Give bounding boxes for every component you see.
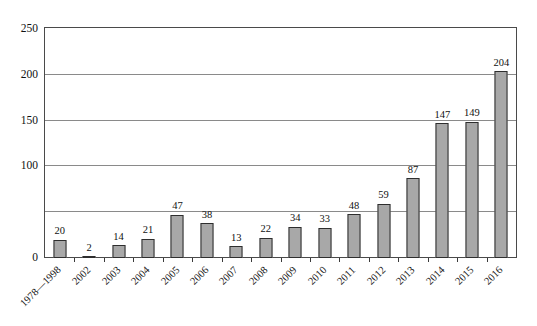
bar[interactable]	[465, 122, 478, 258]
bar-value-label: 48	[349, 201, 360, 212]
y-axis-tick-label: 250	[0, 22, 38, 34]
bar[interactable]	[142, 239, 155, 258]
bar[interactable]	[112, 245, 125, 258]
x-axis-category-label: 2014	[424, 264, 447, 287]
bar-slot: 147	[428, 28, 457, 258]
bar[interactable]	[377, 204, 390, 258]
x-axis-category-label: 2012	[365, 264, 388, 287]
x-axis-category-label: 2003	[100, 264, 123, 287]
x-axis-category-label: 2004	[129, 264, 152, 287]
bar-chart: 0100150200250 20214214738132234334859871…	[0, 0, 537, 326]
bar-value-label: 14	[113, 232, 124, 243]
bar-value-label: 47	[172, 201, 183, 212]
bar-value-label: 22	[261, 224, 272, 235]
bar-value-label: 21	[143, 225, 154, 236]
bar-value-label: 87	[408, 165, 419, 176]
x-axis-category-label: 2002	[70, 264, 93, 287]
bar-value-label: 204	[493, 58, 509, 69]
bar[interactable]	[259, 238, 272, 258]
bar[interactable]	[171, 215, 184, 258]
bar[interactable]	[495, 71, 508, 258]
bars-layer: 2021421473813223433485987147149204	[45, 28, 516, 258]
bar-value-label: 149	[464, 108, 480, 119]
bar-slot: 47	[163, 28, 192, 258]
bar-slot: 48	[339, 28, 368, 258]
x-axis-category-label: 2008	[247, 264, 270, 287]
x-axis-category-label: 2010	[306, 264, 329, 287]
bar[interactable]	[200, 223, 213, 258]
bar-slot: 21	[133, 28, 162, 258]
bar[interactable]	[348, 214, 361, 258]
y-axis-tick-label: 200	[0, 68, 38, 80]
x-axis-category-label: 2013	[394, 264, 417, 287]
bar-slot: 204	[487, 28, 516, 258]
bar-value-label: 2	[87, 243, 92, 254]
bar-slot: 20	[45, 28, 74, 258]
bar[interactable]	[230, 246, 243, 258]
bar-slot: 38	[192, 28, 221, 258]
bar[interactable]	[406, 178, 419, 258]
bar[interactable]	[289, 227, 302, 258]
x-axis-category-label: 2009	[276, 264, 299, 287]
x-axis-category-label: 2006	[188, 264, 211, 287]
bar-value-label: 20	[54, 226, 65, 237]
x-axis-category-label: 2016	[482, 264, 505, 287]
bar-slot: 59	[369, 28, 398, 258]
bar-slot: 2	[74, 28, 103, 258]
bar-slot: 149	[457, 28, 486, 258]
bar-slot: 13	[222, 28, 251, 258]
x-axis-category-label: 2015	[453, 264, 476, 287]
bar-slot: 33	[310, 28, 339, 258]
x-axis-category-label: 2007	[217, 264, 240, 287]
bar[interactable]	[53, 240, 66, 258]
y-axis-tick-label: 100	[0, 159, 38, 171]
x-axis-category-label: 2005	[159, 264, 182, 287]
x-axis-labels: 1978—19982002200320042005200620072008200…	[0, 258, 537, 326]
bar-value-label: 147	[435, 110, 451, 121]
bar-value-label: 33	[319, 214, 330, 225]
y-axis-tick-label: 150	[0, 114, 38, 126]
x-axis-category-label: 1978—1998	[18, 264, 63, 309]
bar-slot: 22	[251, 28, 280, 258]
bar-slot: 14	[104, 28, 133, 258]
bar[interactable]	[436, 123, 449, 258]
x-axis-category-label: 2011	[335, 264, 357, 286]
bar-slot: 34	[281, 28, 310, 258]
bar-value-label: 38	[202, 210, 213, 221]
bar-slot: 87	[398, 28, 427, 258]
bar-value-label: 13	[231, 233, 242, 244]
bar-value-label: 59	[378, 190, 389, 201]
bar[interactable]	[318, 228, 331, 258]
bar-value-label: 34	[290, 213, 301, 224]
